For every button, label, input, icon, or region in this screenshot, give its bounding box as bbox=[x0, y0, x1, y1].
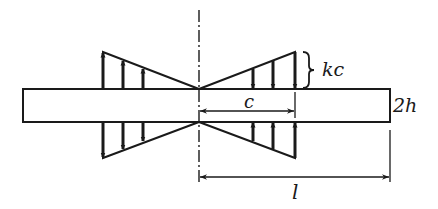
brace-icon bbox=[303, 52, 314, 88]
bottom-left-load bbox=[103, 122, 199, 158]
label-c: c bbox=[244, 91, 254, 112]
beam bbox=[23, 89, 390, 122]
beam-load-diagram: kc c 2h l bbox=[0, 0, 438, 209]
label-l: l bbox=[292, 180, 298, 204]
label-2h: 2h bbox=[392, 94, 417, 116]
bottom-right-load bbox=[199, 122, 295, 158]
top-right-load bbox=[199, 52, 295, 89]
label-kc: kc bbox=[322, 58, 345, 80]
top-left-load bbox=[103, 52, 199, 89]
